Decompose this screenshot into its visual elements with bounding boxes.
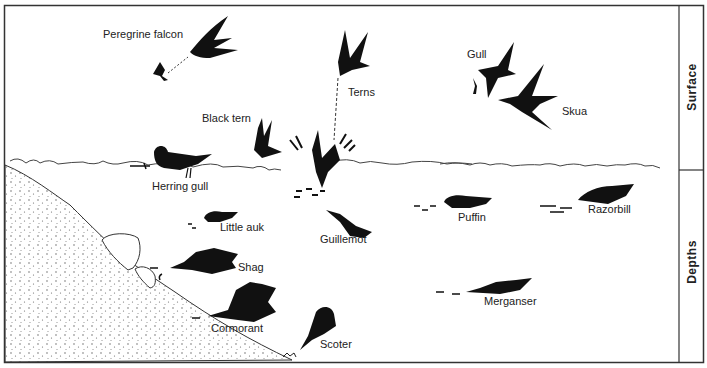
label-terns: Terns: [348, 87, 375, 98]
puffin-silhouette: [414, 195, 492, 210]
fish-school: [294, 188, 325, 198]
label-shag: Shag: [238, 262, 264, 273]
tern-flying-silhouette: [334, 30, 370, 140]
label-scoter: Scoter: [320, 339, 352, 350]
peregrine-falcon-silhouette: [153, 16, 238, 81]
shag-silhouette: [150, 248, 238, 280]
label-black-tern: Black tern: [202, 113, 251, 124]
label-peregrine-falcon: Peregrine falcon: [103, 29, 183, 40]
seabird-feeding-diagram: Peregrine falcon Terns Gull Skua Black t…: [0, 0, 707, 368]
label-little-auk: Little auk: [220, 222, 264, 233]
label-puffin: Puffin: [458, 212, 486, 223]
label-razorbill: Razorbill: [588, 204, 631, 215]
label-gull: Gull: [467, 49, 487, 60]
merganser-silhouette: [436, 278, 532, 294]
black-tern-silhouette: [254, 118, 282, 158]
tern-diving-silhouette: [290, 130, 355, 188]
label-merganser: Merganser: [484, 296, 537, 307]
label-cormorant: Cormorant: [211, 323, 263, 334]
label-guillemot: Guillemot: [320, 234, 366, 245]
label-skua: Skua: [562, 106, 587, 117]
label-herring-gull: Herring gull: [152, 181, 208, 192]
zone-label-surface: Surface: [685, 59, 699, 115]
diagram-canvas: [0, 0, 707, 368]
zone-label-depths: Depths: [685, 234, 699, 290]
